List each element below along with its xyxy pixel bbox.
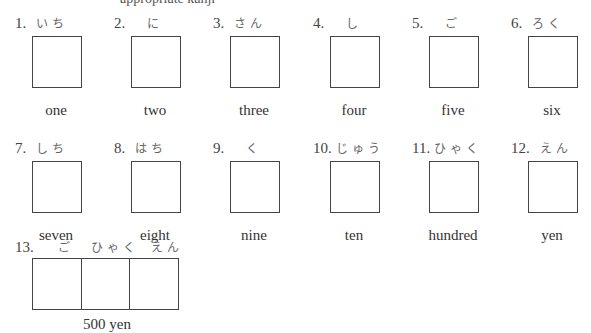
item-meaning: two [106,102,204,119]
item-reading: いち [36,14,68,31]
item-meaning: six [503,102,591,119]
item-label: 13. ご ひゃく えん [15,238,183,256]
item-number: 2. [114,15,125,32]
item-label: 10.じゅう [313,139,384,157]
item-reading: ご [445,14,461,31]
kanji-answer-box[interactable] [330,36,380,88]
item-number: 11. [412,140,430,157]
item-reading-2: ひゃく [91,238,139,255]
item-reading-1: ご [58,238,74,255]
item-label: 6.ろく [511,14,564,32]
item-label: 5.ご [412,14,461,32]
kanji-answer-box[interactable] [230,36,280,88]
item-number: 6. [511,15,522,32]
compound-answer-boxes [32,258,179,310]
item-label: 1.いち [15,14,68,32]
kanji-answer-box[interactable] [32,258,82,310]
item-label: 4.し [313,14,362,32]
item-label: 8.はち [114,139,167,157]
item-number: 3. [213,15,224,32]
item-meaning: yen [503,227,591,244]
item-label: 2.に [114,14,163,32]
item-number: 9. [213,140,224,157]
item-number: 7. [15,140,26,157]
kanji-answer-box[interactable] [528,36,578,88]
item-reading: く [246,139,262,156]
item-number: 5. [412,15,423,32]
item-reading: し [346,14,362,31]
item-meaning: nine [205,227,303,244]
kanji-answer-box[interactable] [429,36,479,88]
item-reading: ろく [532,14,564,31]
item-label: 12.えん [511,139,572,157]
kanji-item-13: 13. ご ひゃく えん 500 yen [15,238,215,330]
item-label: 11.ひゃく [412,139,482,157]
kanji-answer-box[interactable] [429,161,479,213]
item-reading: はち [135,139,167,156]
kanji-answer-box[interactable] [32,161,82,213]
kanji-answer-box[interactable] [230,161,280,213]
kanji-answer-box[interactable] [131,161,181,213]
kanji-answer-box[interactable] [528,161,578,213]
item-reading: ひゃく [434,139,482,156]
item-meaning: one [7,102,105,119]
item-reading: じゅう [336,139,384,156]
item-meaning: four [305,102,403,119]
item-meaning: 500 yen [32,316,182,333]
item-reading: しち [36,139,68,156]
item-reading: えん [540,139,572,156]
item-number: 12. [511,140,530,157]
kanji-answer-box[interactable] [131,36,181,88]
item-meaning: five [404,102,502,119]
item-label: 3.さん [213,14,266,32]
item-reading: さん [234,14,266,31]
kanji-answer-box[interactable] [330,161,380,213]
kanji-answer-box[interactable] [129,258,179,310]
item-meaning: three [205,102,303,119]
item-reading: に [147,14,163,31]
item-reading-3: えん [151,238,183,255]
item-meaning: ten [305,227,403,244]
kanji-answer-box[interactable] [81,258,131,310]
item-number: 1. [15,15,26,32]
item-number: 13. [15,239,34,256]
item-label: 7.しち [15,139,68,157]
kanji-answer-box[interactable] [32,36,82,88]
item-number: 4. [313,15,324,32]
item-meaning: hundred [404,227,502,244]
item-label: 9.く [213,139,262,157]
instruction-text-partial: appropriate kanji [120,0,215,7]
item-number: 10. [313,140,332,157]
item-number: 8. [114,140,125,157]
